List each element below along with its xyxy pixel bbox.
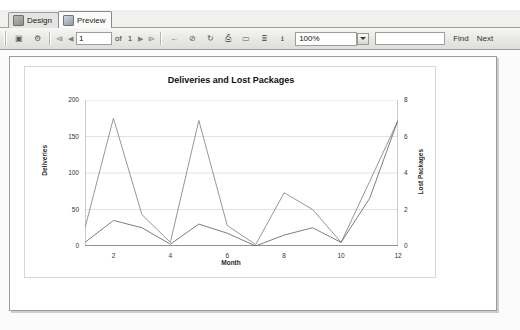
print-layout-button[interactable]: ▭ xyxy=(238,31,254,47)
y-axis-left-tick-label: 0 xyxy=(57,242,79,249)
page-of-label: of xyxy=(115,34,122,43)
y-axis-left-tick-label: 200 xyxy=(57,96,79,103)
stop-rendering-button[interactable]: ⊘ xyxy=(184,31,200,47)
refresh-button[interactable]: ↻ xyxy=(202,31,218,47)
preview-icon xyxy=(63,15,74,26)
y-axis-right-tick-label: 2 xyxy=(404,206,426,213)
y-axis-right-tick-label: 6 xyxy=(404,133,426,140)
parameters-button[interactable]: ⚙ xyxy=(29,31,45,47)
zoom-value: 100% xyxy=(296,34,356,43)
x-axis-tick-label: 4 xyxy=(160,252,180,259)
page-total-label: 1 xyxy=(128,34,132,43)
next-page-button[interactable]: ▶ xyxy=(135,32,146,46)
first-page-button[interactable]: ⧏ xyxy=(54,32,65,46)
x-axis-tick-label: 6 xyxy=(217,252,237,259)
chevron-down-icon[interactable] xyxy=(357,33,369,45)
chart-title: Deliveries and Lost Packages xyxy=(25,75,437,85)
tab-preview[interactable]: Preview xyxy=(58,11,112,28)
chart-container: Deliveries and Lost Packages Deliveries … xyxy=(24,66,436,278)
export-button[interactable]: ⭳ xyxy=(274,31,290,47)
y-axis-right-tick-label: 4 xyxy=(404,169,426,176)
data-series xyxy=(85,118,398,246)
x-axis-tick-label: 8 xyxy=(274,252,294,259)
toolbar-separator xyxy=(49,32,51,45)
print-button[interactable]: ⎙ xyxy=(220,31,236,47)
y-axis-right-tick-label: 0 xyxy=(404,242,426,249)
document-map-button[interactable]: ▣ xyxy=(11,31,27,47)
page-setup-button[interactable]: ⌸ xyxy=(256,31,272,47)
zoom-combobox[interactable]: 100% xyxy=(295,32,357,46)
find-next-button[interactable]: Next xyxy=(477,34,493,43)
toolbar-grip[interactable] xyxy=(4,31,7,46)
last-page-button[interactable]: ⧐ xyxy=(146,32,157,46)
y-axis-left-tick-label: 50 xyxy=(57,206,79,213)
report-viewer-surface: Deliveries and Lost Packages Deliveries … xyxy=(0,50,520,330)
toolbar-separator xyxy=(160,32,162,45)
report-toolbar: ▣ ⚙ ⧏ ◀ 1 of 1 ▶ ⧐ ← ⊘ ↻ ⎙ ▭ ⌸ ⭳ 100% Fi… xyxy=(0,28,520,50)
tab-preview-label: Preview xyxy=(77,16,105,25)
x-axis-title: Month xyxy=(25,259,437,266)
find-button[interactable]: Find xyxy=(453,34,469,43)
find-input[interactable] xyxy=(375,32,445,45)
y-axis-left-tick-label: 150 xyxy=(57,133,79,140)
page-number-input[interactable]: 1 xyxy=(76,32,112,45)
y-axis-right-tick-label: 8 xyxy=(404,96,426,103)
tab-strip: Design Preview xyxy=(0,10,520,28)
design-icon xyxy=(13,15,24,26)
report-page: Deliveries and Lost Packages Deliveries … xyxy=(9,56,497,311)
y-axis-left-tick-label: 100 xyxy=(57,169,79,176)
x-axis-tick-label: 12 xyxy=(388,252,408,259)
plot-area xyxy=(85,100,398,246)
gridlines xyxy=(85,100,398,210)
x-axis-tick-label: 10 xyxy=(331,252,351,259)
tab-design[interactable]: Design xyxy=(8,12,59,28)
x-axis-tick-label: 2 xyxy=(103,252,123,259)
series-line-1 xyxy=(85,120,398,246)
tab-design-label: Design xyxy=(27,16,52,25)
previous-page-button[interactable]: ◀ xyxy=(65,32,76,46)
back-to-parent-button[interactable]: ← xyxy=(166,31,182,47)
chart-svg xyxy=(85,100,398,246)
y-axis-left-title: Deliveries xyxy=(41,145,48,176)
